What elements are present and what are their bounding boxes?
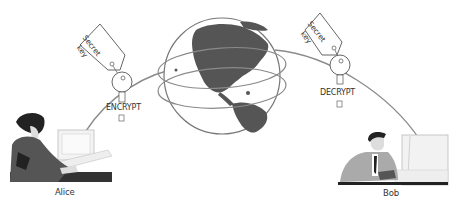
bob-figure	[338, 132, 448, 185]
encrypt-key-icon	[112, 72, 132, 102]
lock-icon-decrypt	[337, 101, 342, 107]
alice-name-label: Alice	[55, 187, 74, 197]
bob-name-label: Bob	[383, 188, 399, 198]
decrypt-key-icon	[330, 55, 350, 84]
alice-figure	[10, 113, 112, 182]
encrypt-label: ENCRYPT	[106, 103, 141, 112]
decrypt-label: DECRYPT	[320, 88, 355, 97]
lock-icon-encrypt	[119, 115, 124, 121]
globe-icon	[157, 18, 287, 134]
diagram-canvas	[0, 0, 453, 206]
